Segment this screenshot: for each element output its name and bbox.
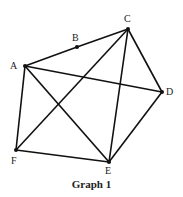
edge-A-B <box>25 47 77 66</box>
vertex-label-C: C <box>124 14 131 24</box>
vertex-B <box>75 45 79 49</box>
vertex-label-E: E <box>105 166 111 176</box>
graph-canvas <box>0 0 183 197</box>
vertex-F <box>14 148 18 152</box>
vertex-E <box>107 160 111 164</box>
graph-caption: Graph 1 <box>0 178 183 190</box>
vertex-label-A: A <box>10 61 17 71</box>
vertex-label-B: B <box>72 33 79 43</box>
vertex-D <box>160 90 164 94</box>
edge-A-E <box>25 66 109 162</box>
edge-C-E <box>109 29 128 162</box>
edge-C-D <box>128 29 162 92</box>
vertex-A <box>23 64 27 68</box>
edge-F-E <box>16 150 109 162</box>
vertex-label-D: D <box>166 87 173 97</box>
edge-A-D <box>25 66 162 92</box>
vertex-C <box>126 27 130 31</box>
edge-A-F <box>16 66 25 150</box>
vertex-label-F: F <box>11 156 17 166</box>
edge-C-F <box>16 29 128 150</box>
